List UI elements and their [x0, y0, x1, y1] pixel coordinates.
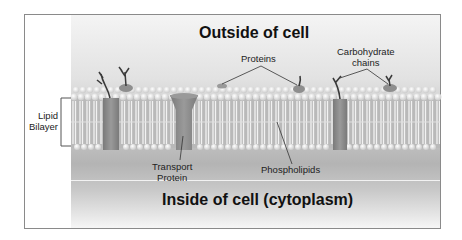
transport-label-line2: Protein [152, 172, 192, 183]
peripheral-protein-center [293, 76, 305, 93]
carbohydrate-label-line1: Carbohydrate [337, 46, 395, 57]
lipid-bilayer-label-line1: Lipid [29, 110, 58, 121]
transport-label-line1: Transport [152, 161, 192, 172]
phospholipids-label: Phospholipids [261, 164, 320, 175]
cytoplasm-boundary-line [71, 180, 440, 181]
carbohydrate-chains-label: Carbohydrate chains [337, 46, 395, 68]
inside-cell-title: Inside of cell (cytoplasm) [162, 191, 353, 209]
transport-protein-label: Transport Protein [152, 161, 192, 183]
proteins-label: Proteins [241, 53, 276, 64]
phospholipid-bilayer [71, 87, 442, 150]
outside-cell-title: Outside of cell [199, 24, 309, 42]
lipid-bilayer-bracket [61, 98, 71, 146]
lipid-bilayer-label-line2: Bilayer [29, 121, 58, 132]
carbohydrate-label-line2: chains [337, 57, 395, 68]
lipid-bilayer-label: Lipid Bilayer [29, 110, 58, 132]
peripheral-protein-small [217, 84, 227, 89]
peripheral-protein-left [119, 67, 133, 92]
peripheral-protein-right [383, 75, 397, 92]
